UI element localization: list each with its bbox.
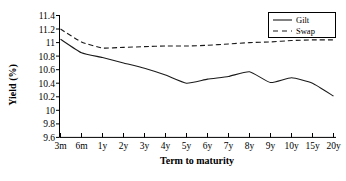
y-tick-label: 10.6	[38, 65, 55, 75]
x-tick-labels: 3m 6m 1y 2y 3y 4y 5y 6y 7y 8y 9y 10y 15y…	[54, 141, 340, 151]
x-tick-label: 15y	[305, 141, 320, 151]
x-tick-label: 8y	[245, 141, 255, 151]
y-axis-title: Yield (%)	[7, 64, 19, 106]
legend[interactable]: Gilt Swap	[269, 13, 336, 38]
yield-curve-chart: Yield (%) 11.4 11.2 11 10.8 10.6 10.4 10…	[0, 0, 346, 181]
x-tick-label: 3m	[54, 141, 67, 151]
y-tick-label: 11	[46, 38, 55, 48]
x-tick-label: 9y	[266, 141, 276, 151]
x-axis-title: Term to maturity	[160, 155, 234, 166]
x-tick-label: 4y	[161, 141, 171, 151]
y-tick-label: 10	[46, 106, 56, 116]
x-tick-label: 3y	[140, 141, 150, 151]
x-tick-label: 2y	[119, 141, 129, 151]
y-tick-label: 9.6	[43, 133, 55, 143]
legend-label-gilt: Gilt	[296, 15, 310, 25]
y-tick-labels: 11.4 11.2 11 10.8 10.6 10.4 10.2 10 9.8 …	[38, 11, 55, 143]
y-tick-marks	[56, 16, 60, 138]
series-line-gilt	[61, 39, 334, 96]
chart-svg: Yield (%) 11.4 11.2 11 10.8 10.6 10.4 10…	[0, 0, 346, 181]
x-tick-label: 20y	[326, 141, 341, 151]
y-tick-label: 10.4	[38, 79, 55, 89]
y-tick-label: 9.8	[43, 119, 55, 129]
x-tick-marks	[61, 133, 334, 137]
x-tick-label: 6y	[203, 141, 213, 151]
legend-label-swap: Swap	[296, 26, 315, 36]
x-tick-label: 6m	[75, 141, 88, 151]
y-tick-label: 10.8	[38, 52, 55, 62]
y-tick-label: 10.2	[38, 92, 55, 102]
x-tick-label: 10y	[284, 141, 299, 151]
x-tick-label: 7y	[224, 141, 234, 151]
x-tick-label: 5y	[182, 141, 192, 151]
y-tick-label: 11.2	[39, 25, 56, 35]
x-tick-label: 1y	[98, 141, 108, 151]
y-tick-label: 11.4	[39, 11, 56, 21]
